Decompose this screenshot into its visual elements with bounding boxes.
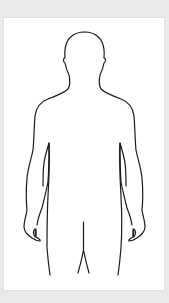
right-torso-leg xyxy=(118,143,122,275)
body-right-contour xyxy=(85,32,146,241)
body-diagram-frame: Human body outline (front view) xyxy=(0,0,169,303)
body-left-contour xyxy=(24,32,85,241)
inner-leg-line xyxy=(78,222,89,273)
human-body-outline-icon xyxy=(0,0,169,303)
